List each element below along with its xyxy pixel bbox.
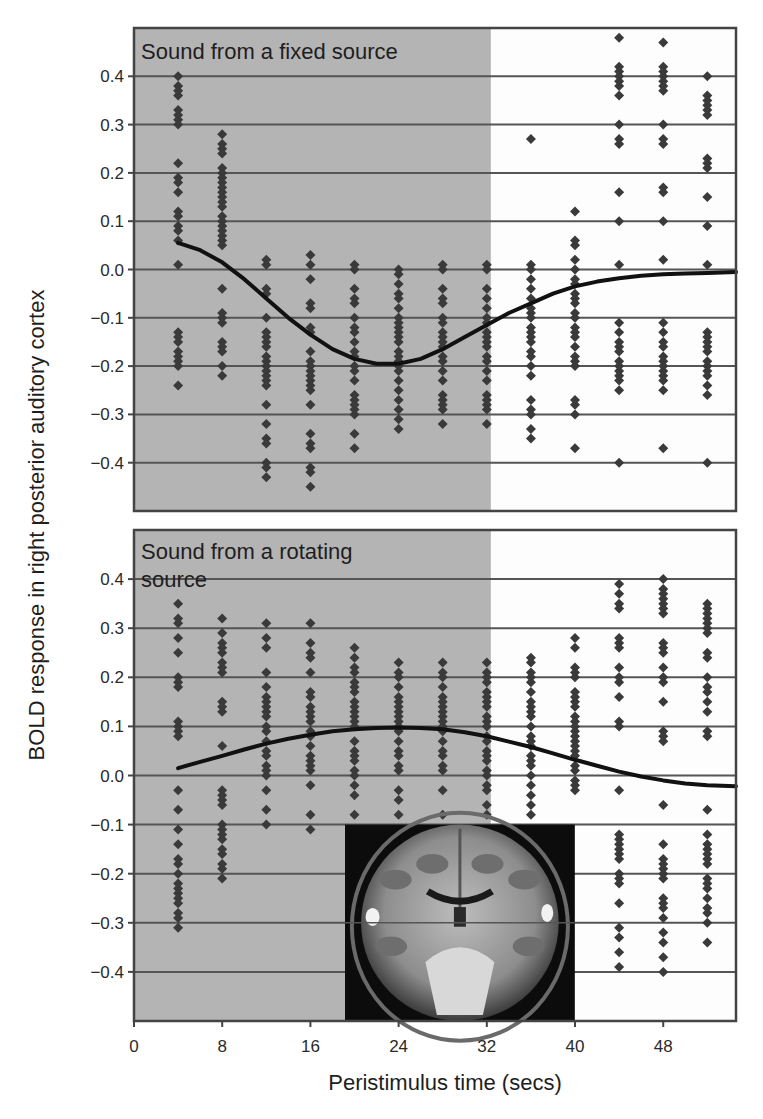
y-tick-label: 0.2 <box>100 164 124 183</box>
x-tick-label: 16 <box>301 1037 320 1056</box>
y-tick-label: −0.4 <box>90 454 124 473</box>
y-tick-label: −0.2 <box>90 865 124 884</box>
x-axis: 081624324048 <box>129 1021 672 1056</box>
brain-mri-inset-image <box>345 813 575 1041</box>
y-axis-ticks: 0.40.30.20.10.0−0.1−0.2−0.3−0.4 <box>90 67 134 472</box>
y-tick-label: 0.3 <box>100 619 124 638</box>
x-axis-title: Peristimulus time (secs) <box>328 1070 561 1095</box>
y-tick-label: 0.3 <box>100 116 124 135</box>
x-tick-label: 32 <box>477 1037 496 1056</box>
y-tick-label: −0.1 <box>90 816 124 835</box>
bold-response-figure: 0.40.30.20.10.0−0.1−0.2−0.3−0.4 Sound fr… <box>0 0 763 1119</box>
y-tick-label: −0.1 <box>90 309 124 328</box>
y-tick-label: −0.3 <box>90 914 124 933</box>
panel-title: Sound from a fixed source <box>141 39 398 64</box>
y-tick-label: −0.3 <box>90 405 124 424</box>
y-tick-label: −0.4 <box>90 963 124 982</box>
x-tick-label: 40 <box>566 1037 585 1056</box>
y-tick-label: 0.4 <box>100 570 124 589</box>
y-tick-label: 0.1 <box>100 717 124 736</box>
x-tick-label: 24 <box>389 1037 408 1056</box>
y-axis-title: BOLD response in right posterior auditor… <box>24 290 49 761</box>
y-tick-label: 0.1 <box>100 212 124 231</box>
panel-title-line1: Sound from a rotating <box>141 539 353 564</box>
fixed-source-panel: 0.40.30.20.10.0−0.1−0.2−0.3−0.4 Sound fr… <box>90 28 736 511</box>
y-axis-ticks: 0.40.30.20.10.0−0.1−0.2−0.3−0.4 <box>90 570 134 982</box>
x-tick-label: 8 <box>217 1037 226 1056</box>
x-tick-label: 48 <box>654 1037 673 1056</box>
rotating-source-panel: 0.40.30.20.10.0−0.1−0.2−0.3−0.4 Sound fr… <box>90 530 736 1041</box>
y-tick-label: 0.2 <box>100 668 124 687</box>
x-tick-label: 0 <box>129 1037 138 1056</box>
y-tick-label: −0.2 <box>90 357 124 376</box>
y-tick-label: 0.4 <box>100 67 124 86</box>
y-tick-label: 0.0 <box>100 261 124 280</box>
y-tick-label: 0.0 <box>100 767 124 786</box>
panel-title-line2: source <box>141 567 207 592</box>
